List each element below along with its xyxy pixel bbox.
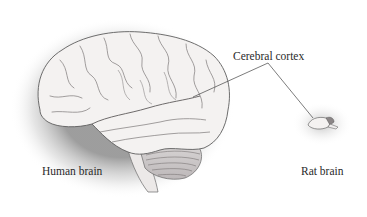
label-cerebral-cortex: Cerebral cortex	[233, 51, 304, 63]
rat-brain	[292, 102, 352, 146]
brain-comparison-figure: Cerebral cortex Human brain Rat brain	[0, 0, 367, 217]
illustration	[0, 0, 367, 217]
label-rat-brain: Rat brain	[301, 166, 343, 178]
leader-line-rat	[268, 63, 313, 118]
label-human-brain: Human brain	[42, 166, 102, 178]
